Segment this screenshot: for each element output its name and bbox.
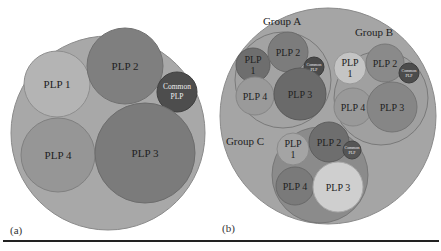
panel-a-plp3-label: PLP 3 — [132, 147, 159, 159]
group-a-plp2-label: PLP 2 — [276, 47, 300, 58]
group-c-plp2-label: PLP 2 — [317, 137, 341, 148]
group-b-common-label-2: PLP — [406, 73, 414, 78]
group-a-plp4-label: PLP 4 — [243, 91, 267, 102]
panel-a-plp1-label: PLP 1 — [44, 78, 71, 90]
group-b-plp2-label: PLP 2 — [373, 58, 397, 69]
group-a-plp1-label-2: 1 — [251, 65, 256, 76]
panel-a-plp2-label: PLP 2 — [112, 60, 139, 72]
group-a-common-label-2: PLP — [311, 67, 319, 72]
panel-b-caption: (b) — [222, 222, 235, 234]
group-a-plp1-label-1: PLP — [244, 54, 262, 65]
panel-a-caption: (a) — [10, 224, 22, 236]
group-b-plp1-label-1: PLP — [341, 57, 359, 68]
group-a-label: Group A — [263, 15, 301, 27]
panel-a-common-label-2: PLP — [171, 92, 184, 101]
panel-a-plp4-label: PLP 4 — [45, 149, 72, 161]
group-b-label: Group B — [355, 26, 393, 38]
group-c-common-label-2: PLP — [349, 150, 357, 155]
panel-a: PLP 1 PLP 2 Common PLP PLP 4 PLP 3 — [11, 28, 205, 230]
group-b-plp3-label: PLP 3 — [380, 102, 404, 113]
panel-b: Group A PLP 1 PLP 2 Common PLP PLP 4 PLP… — [220, 8, 436, 224]
group-c-plp4-label: PLP 4 — [283, 181, 307, 192]
group-c-plp3-label: PLP 3 — [326, 182, 350, 193]
group-c-plp1-label-2: 1 — [291, 149, 296, 160]
group-b-plp4-label: PLP 4 — [341, 102, 365, 113]
bottom-rule — [3, 240, 439, 242]
group-c-label: Group C — [226, 135, 264, 147]
panel-a-common-label-1: Common — [163, 82, 191, 91]
group-b-plp1-label-2: 1 — [348, 68, 353, 79]
group-c-plp1-label-1: PLP — [284, 138, 302, 149]
diagram-canvas: PLP 1 PLP 2 Common PLP PLP 4 PLP 3 Group… — [0, 0, 441, 251]
group-a-plp3-label: PLP 3 — [288, 89, 312, 100]
